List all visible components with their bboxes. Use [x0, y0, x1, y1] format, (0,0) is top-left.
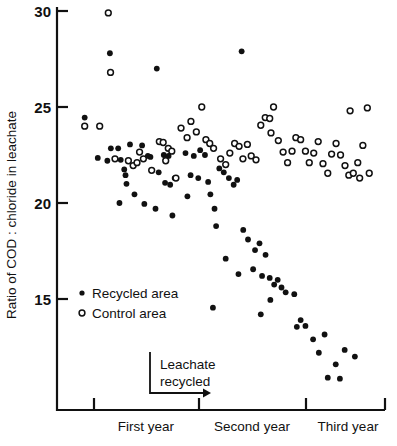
- data-point-control: [355, 160, 361, 166]
- x-category-label-first-year: First year: [118, 419, 175, 434]
- data-point-recycled: [156, 169, 162, 175]
- data-point-recycled: [212, 206, 218, 212]
- data-point-recycled: [154, 66, 160, 72]
- data-point-recycled: [82, 115, 88, 121]
- data-point-recycled: [226, 175, 232, 181]
- data-point-recycled: [325, 375, 331, 381]
- data-point-recycled: [188, 172, 194, 178]
- x-category-label-second-year: Second year: [214, 419, 290, 434]
- data-point-recycled: [170, 213, 176, 219]
- data-point-recycled: [291, 291, 297, 297]
- data-point-recycled: [352, 354, 358, 360]
- data-point-recycled: [213, 223, 219, 229]
- data-point-control: [364, 105, 370, 111]
- data-point-recycled: [303, 323, 309, 329]
- data-point-recycled: [197, 147, 203, 153]
- data-point-control: [149, 167, 155, 173]
- data-point-recycled: [124, 181, 130, 187]
- legend: Recycled area Control area: [79, 286, 179, 321]
- data-point-control: [298, 137, 304, 143]
- annotation-line-2: recycled: [160, 374, 210, 389]
- data-point-control: [173, 175, 179, 181]
- data-point-control: [223, 162, 229, 168]
- x-category-label-third-year: Third year: [318, 419, 379, 434]
- data-point-recycled: [162, 180, 168, 186]
- data-point-recycled: [258, 311, 264, 317]
- data-point-recycled: [279, 285, 285, 291]
- scatter-plot-svg: 30 25 20 15 First year Second year Third…: [0, 0, 397, 446]
- data-point-recycled: [104, 158, 110, 164]
- data-point-recycled: [195, 175, 201, 181]
- data-point-recycled: [310, 336, 316, 342]
- data-point-recycled: [245, 237, 251, 243]
- data-point-control: [275, 138, 281, 144]
- data-point-control: [360, 143, 366, 149]
- data-point-recycled: [121, 167, 127, 173]
- data-point-control: [315, 139, 321, 145]
- data-point-recycled: [132, 191, 138, 197]
- data-point-recycled: [250, 266, 256, 272]
- data-point-recycled: [207, 191, 213, 197]
- data-point-recycled: [115, 145, 121, 151]
- data-point-recycled: [148, 154, 154, 160]
- data-point-recycled: [191, 153, 197, 159]
- axes: [57, 7, 385, 410]
- data-point-control: [236, 143, 242, 149]
- data-point-control: [227, 150, 233, 156]
- data-point-recycled: [127, 142, 133, 148]
- data-point-recycled: [167, 182, 173, 188]
- data-point-recycled: [221, 169, 227, 175]
- data-point-recycled: [298, 317, 304, 323]
- data-point-recycled: [316, 350, 322, 356]
- data-point-control: [350, 170, 356, 176]
- data-point-recycled: [205, 179, 211, 185]
- data-point-control: [199, 104, 205, 110]
- data-point-recycled: [185, 193, 191, 199]
- y-tick-label-30: 30: [34, 3, 51, 20]
- data-point-control: [169, 148, 175, 154]
- x-axis-ticks: First year Second year Third year: [94, 398, 379, 434]
- data-point-control: [271, 104, 277, 110]
- data-point-control: [268, 130, 274, 136]
- y-axis-title: Ratio of COD : chloride in leachate: [4, 111, 19, 319]
- data-point-recycled: [161, 152, 167, 158]
- legend-label-recycled: Recycled area: [92, 286, 179, 301]
- legend-marker-control: [79, 310, 85, 316]
- data-point-recycled: [252, 247, 258, 253]
- data-point-recycled: [95, 155, 101, 161]
- data-point-recycled: [240, 227, 246, 233]
- data-point-recycled: [283, 289, 289, 295]
- y-tick-label-20: 20: [34, 195, 51, 212]
- data-point-recycled: [223, 256, 229, 262]
- data-point-control: [188, 119, 194, 125]
- y-axis-ticks: 30 25 20 15: [34, 3, 68, 308]
- data-point-control: [125, 158, 131, 164]
- arrow-head-icon: [203, 389, 211, 398]
- data-point-recycled: [234, 177, 240, 183]
- data-point-control: [184, 135, 190, 141]
- data-point-control: [108, 70, 114, 76]
- data-point-recycled: [108, 145, 114, 151]
- data-point-recycled: [202, 152, 208, 158]
- data-point-control: [342, 163, 348, 169]
- data-point-control: [134, 160, 140, 166]
- data-points-layer: [82, 10, 372, 382]
- data-point-control: [306, 160, 312, 166]
- data-point-recycled: [263, 252, 269, 258]
- data-point-control: [140, 156, 146, 162]
- data-point-recycled: [275, 277, 281, 283]
- data-point-recycled: [342, 347, 348, 353]
- y-tick-label-25: 25: [34, 99, 51, 116]
- data-point-recycled: [257, 240, 263, 246]
- data-point-recycled: [117, 200, 123, 206]
- data-point-recycled: [123, 172, 129, 178]
- data-point-control: [311, 150, 317, 156]
- data-point-control: [333, 141, 339, 147]
- data-point-recycled: [141, 201, 147, 207]
- data-point-control: [329, 151, 335, 157]
- data-point-control: [105, 10, 111, 16]
- data-point-control: [338, 152, 344, 158]
- data-point-control: [137, 149, 143, 155]
- data-point-control: [258, 122, 264, 128]
- data-point-control: [289, 148, 295, 154]
